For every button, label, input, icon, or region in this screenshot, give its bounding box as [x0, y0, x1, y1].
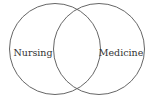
- medicine-label: Medicine: [99, 47, 144, 58]
- nursing-label: Nursing: [13, 47, 52, 58]
